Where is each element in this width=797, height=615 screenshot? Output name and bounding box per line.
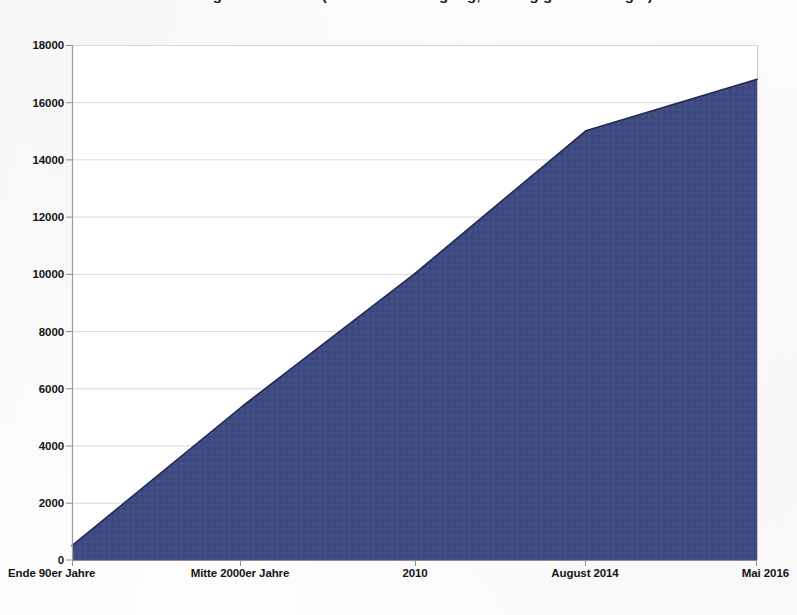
y-axis-ticks	[66, 46, 72, 561]
y-tick-4000: 4000	[8, 440, 64, 452]
x-tick-ende-90er-jahre: Ende 90er Jahre	[8, 567, 95, 579]
y-tick-18000: 18000	[8, 39, 64, 51]
y-tick-10000: 10000	[8, 268, 64, 280]
y-tick-2000: 2000	[8, 497, 64, 509]
x-tick-mitte-2000er-jahre: Mitte 2000er Jahre	[191, 567, 290, 579]
y-axis-labels: 18000 16000 14000 12000 10000 8000 6000 …	[0, 0, 64, 615]
x-tick-2010: 2010	[402, 567, 427, 579]
y-tick-6000: 6000	[8, 383, 64, 395]
y-tick-8000: 8000	[8, 326, 64, 338]
y-tick-16000: 16000	[8, 97, 64, 109]
chart-canvas	[0, 0, 797, 615]
x-tick-mai-2016: Mai 2016	[742, 567, 789, 579]
area-chart: 18000 16000 14000 12000 10000 8000 6000 …	[0, 0, 797, 615]
y-tick-14000: 14000	[8, 154, 64, 166]
x-tick-august-2014: August 2014	[551, 567, 618, 579]
x-axis-labels: Ende 90er Jahre Mitte 2000er Jahre 2010 …	[0, 567, 797, 597]
y-tick-0: 0	[8, 554, 64, 566]
y-tick-12000: 12000	[8, 211, 64, 223]
